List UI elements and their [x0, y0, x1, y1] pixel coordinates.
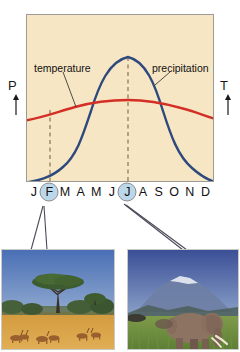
- temperature-leader-line: [63, 72, 76, 107]
- photo-row: [0, 249, 240, 352]
- month-label: N: [185, 185, 194, 199]
- connector-july-a: [124, 204, 183, 250]
- temperature-curve: [27, 100, 213, 121]
- axis-label-precipitation: P: [8, 78, 17, 93]
- connector-february-b: [44, 206, 47, 250]
- month-label: J: [31, 185, 37, 199]
- plot-area: [26, 14, 214, 182]
- month-label: A: [139, 185, 147, 199]
- up-arrow-icon-right: [223, 94, 233, 116]
- temperature-label: temperature: [34, 62, 91, 74]
- month-label: M: [91, 185, 101, 199]
- axis-label-temperature: T: [220, 78, 228, 93]
- connector-july-b: [126, 205, 187, 250]
- month-label: J: [124, 185, 130, 199]
- month-label: S: [154, 185, 162, 199]
- month-label: F: [46, 185, 54, 199]
- month-label: J: [109, 185, 115, 199]
- precipitation-label: precipitation: [152, 62, 209, 74]
- plot-curves: [27, 15, 213, 181]
- connector-february-a: [31, 206, 43, 250]
- climate-diagram-figure: P T: [0, 0, 240, 352]
- month-label: A: [76, 185, 84, 199]
- wet-season-savanna-photo[interactable]: [127, 249, 239, 350]
- month-label: D: [201, 185, 210, 199]
- climate-chart: P T: [0, 0, 240, 200]
- dry-season-savanna-photo[interactable]: [1, 249, 115, 350]
- precipitation-curve: [27, 57, 213, 181]
- photo-connector-lines: [0, 196, 240, 252]
- month-label: M: [60, 185, 70, 199]
- up-arrow-icon-left: [11, 94, 21, 116]
- month-label: O: [169, 185, 179, 199]
